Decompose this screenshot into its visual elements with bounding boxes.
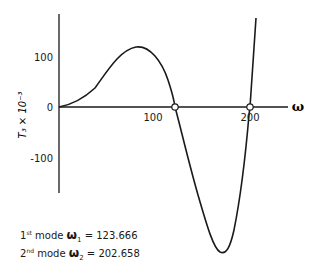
mode-2-suffix: nd bbox=[26, 247, 34, 254]
mode-1-annotation: 1st mode ω1 = 123.666 bbox=[20, 227, 138, 246]
x-axis-label: ω bbox=[292, 99, 304, 114]
mode-1-word: mode bbox=[35, 230, 63, 241]
mode-1-value: = 123.666 bbox=[85, 230, 138, 241]
omega-2-subscript: 2 bbox=[79, 254, 83, 262]
omega-2-symbol: ω bbox=[69, 246, 79, 260]
y-tick-0: 0 bbox=[47, 102, 53, 113]
y-tick-minus-100: -100 bbox=[30, 153, 53, 164]
mode-2-value: = 202.658 bbox=[87, 248, 140, 259]
mode-2-annotation: 2nd mode ω2 = 202.658 bbox=[20, 245, 140, 264]
mode-1-suffix: st bbox=[26, 229, 31, 236]
zero-marker-1 bbox=[172, 104, 178, 110]
x-tick-100: 100 bbox=[143, 112, 162, 123]
zero-marker-2 bbox=[247, 104, 253, 110]
mode-shape-curve bbox=[59, 18, 256, 253]
x-tick-200: 200 bbox=[240, 112, 259, 123]
mode-2-word: mode bbox=[37, 248, 65, 259]
y-axis-label: T₃ × 10⁻³ bbox=[17, 92, 28, 139]
omega-1-subscript: 1 bbox=[77, 236, 81, 244]
y-tick-100: 100 bbox=[34, 52, 53, 63]
omega-1-symbol: ω bbox=[67, 228, 77, 242]
